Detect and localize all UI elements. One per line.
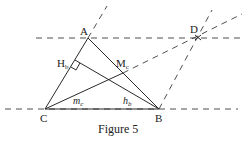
geometry-figure: A B C D Hb Mc mc hb Figure 5 <box>0 0 247 141</box>
line-mc-d-extension <box>123 14 242 73</box>
label-b: B <box>155 112 162 124</box>
label-hb: Hb <box>57 57 69 71</box>
label-mc-main: M <box>116 57 126 69</box>
label-median-mc-main: m <box>73 95 80 106</box>
label-c: C <box>40 112 47 124</box>
line-ca-extension <box>88 6 107 38</box>
label-altitude-hb: hb <box>123 95 132 108</box>
label-median-mc-sub: c <box>80 100 84 108</box>
label-mc-sub: c <box>126 63 129 71</box>
label-hb-sub: b <box>65 63 69 71</box>
label-d: D <box>190 23 198 35</box>
median-mc <box>45 73 123 109</box>
label-median-mc: mc <box>73 95 84 108</box>
figure-caption: Figure 5 <box>98 122 138 136</box>
side-ca <box>45 38 88 109</box>
line-b-d <box>159 10 212 109</box>
label-mc: Mc <box>116 57 129 71</box>
label-a: A <box>80 25 88 37</box>
label-altitude-hb-sub: b <box>128 100 132 108</box>
label-hb-main: H <box>57 57 65 69</box>
